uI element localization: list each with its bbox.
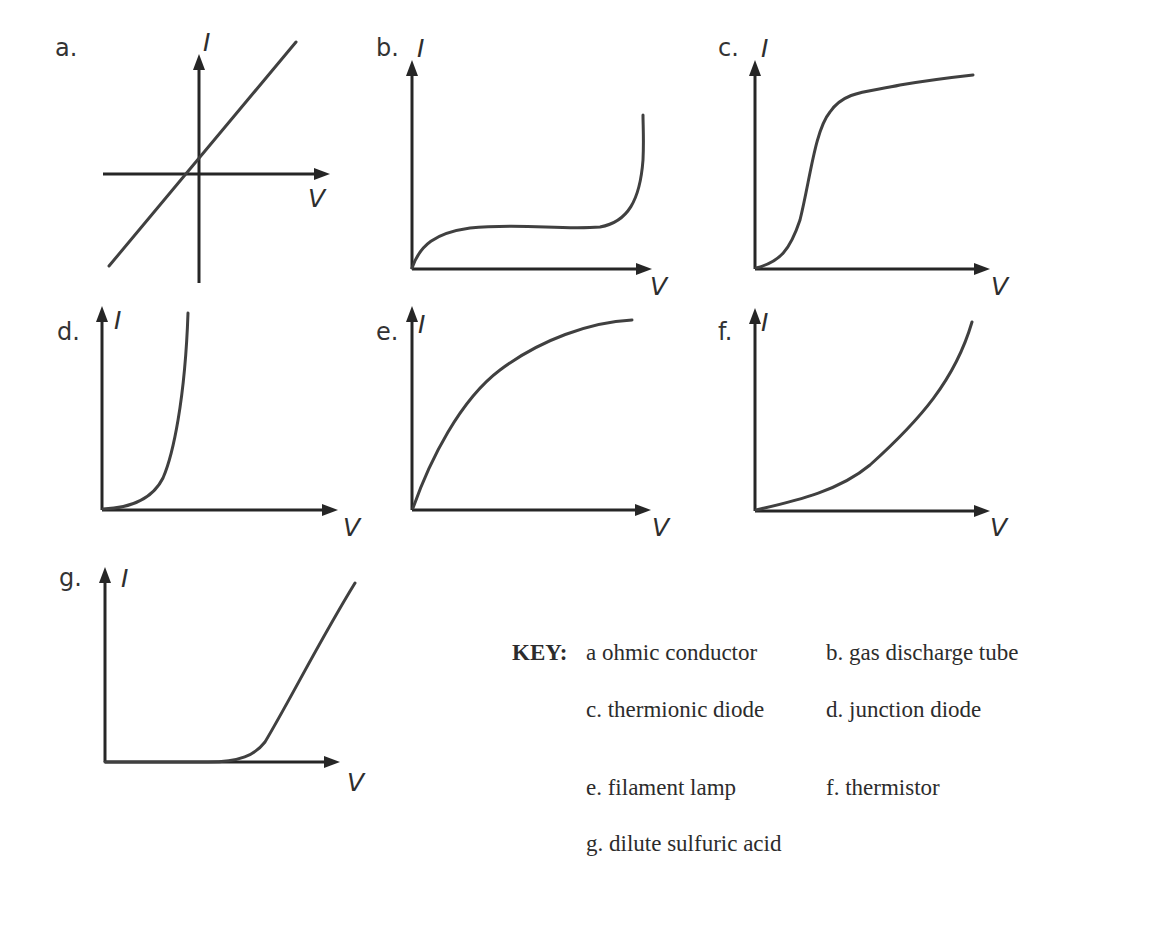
iv-curve (105, 583, 355, 762)
y-axis-label: I (417, 34, 424, 63)
arrowhead-icon (974, 505, 990, 517)
graph-e (406, 306, 651, 516)
iv-characteristics-figure: a.IVb.IVc.IVd.IVe.IVf.IVg.IV KEY: a ohmi… (0, 0, 1166, 933)
x-axis-label: V (652, 513, 669, 542)
panel-label-b: b. (376, 34, 399, 62)
arrowhead-icon (406, 306, 418, 322)
graph-c (749, 60, 990, 275)
arrowhead-icon (322, 504, 338, 516)
arrowhead-icon (324, 756, 340, 768)
iv-curve (109, 42, 296, 266)
graph-d (96, 306, 338, 516)
arrowhead-icon (749, 308, 761, 324)
key-entry-d: d. junction diode (826, 697, 981, 723)
arrowhead-icon (96, 306, 108, 322)
key-title: KEY: (512, 640, 567, 666)
x-axis-label: V (991, 272, 1008, 301)
arrowhead-icon (314, 168, 330, 180)
x-axis-label: V (343, 513, 360, 542)
arrowhead-icon (974, 263, 990, 275)
key-entry-f: f. thermistor (826, 775, 940, 801)
graph-a (103, 42, 330, 283)
x-axis-label: V (990, 513, 1007, 542)
iv-curve (103, 313, 188, 509)
y-axis-label: I (761, 308, 768, 337)
iv-curve (412, 115, 643, 268)
panel-label-g: g. (59, 564, 82, 592)
iv-curve (756, 322, 972, 510)
x-axis-label: V (308, 184, 325, 213)
iv-curve (413, 320, 632, 508)
panel-label-d: d. (57, 318, 80, 346)
panel-label-e: e. (376, 318, 398, 346)
panel-label-f: f. (718, 318, 732, 346)
graph-g (99, 567, 355, 768)
x-axis-label: V (347, 768, 364, 797)
arrowhead-icon (635, 504, 651, 516)
key-entry-b: b. gas discharge tube (826, 640, 1018, 666)
iv-curve (756, 75, 973, 268)
graph-f (749, 308, 990, 517)
key-entry-e: e. filament lamp (586, 775, 736, 801)
y-axis-label: I (121, 564, 128, 593)
x-axis-label: V (650, 272, 667, 301)
graphs-canvas (0, 0, 1166, 933)
y-axis-label: I (761, 34, 768, 63)
y-axis-label: I (114, 306, 121, 335)
key-entry-c: c. thermionic diode (586, 697, 764, 723)
key-entry-g: g. dilute sulfuric acid (586, 831, 781, 857)
key-entry-a: a ohmic conductor (586, 640, 757, 666)
y-axis-label: I (203, 28, 210, 57)
panel-label-c: c. (718, 34, 739, 62)
arrowhead-icon (749, 60, 761, 76)
graph-b (406, 60, 652, 275)
panel-label-a: a. (55, 34, 77, 62)
y-axis-label: I (418, 310, 425, 339)
arrowhead-icon (99, 567, 111, 583)
